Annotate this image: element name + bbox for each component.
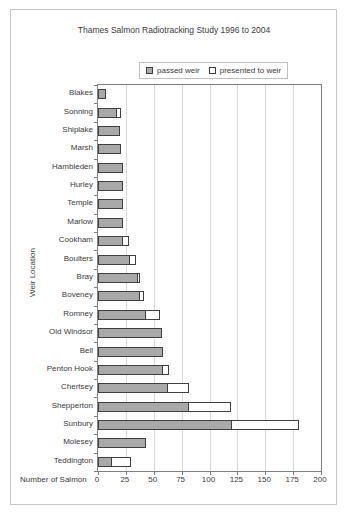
legend: passed weir presented to weir: [139, 62, 288, 79]
y-axis-tick: [94, 342, 97, 343]
y-axis-tick: [94, 195, 97, 196]
y-axis-category-label: Bell: [12, 346, 93, 356]
y-axis-category-label: Temple: [12, 198, 93, 208]
bar-passed-segment: [98, 218, 123, 228]
y-axis-tick: [94, 379, 97, 380]
bar-passed-segment: [98, 365, 163, 375]
bar-presented-segment: [116, 108, 121, 118]
y-axis-category-label: Sunbury: [12, 419, 93, 429]
y-axis-tick: [94, 416, 97, 417]
x-axis-tick-label: 125: [221, 475, 251, 484]
x-axis-tick-label: 100: [194, 475, 224, 484]
bar-passed-segment: [98, 457, 112, 467]
y-axis-category-label: Romney: [12, 309, 93, 319]
legend-label-presented: presented to weir: [220, 66, 281, 75]
bar-passed-segment: [98, 108, 117, 118]
gridline: [265, 85, 266, 471]
passed-weir-swatch-icon: [146, 67, 153, 74]
y-axis-tick: [94, 287, 97, 288]
bar-presented-segment: [129, 255, 136, 265]
plot-area: [97, 84, 322, 472]
chart-title: Thames Salmon Radiotracking Study 1996 t…: [0, 25, 348, 35]
gridline: [210, 85, 211, 471]
chart-image: Thames Salmon Radiotracking Study 1996 t…: [0, 0, 348, 516]
y-axis-tick: [94, 214, 97, 215]
y-axis-category-label: Sonning: [12, 107, 93, 117]
y-axis-category-label: Blakes: [12, 88, 93, 98]
y-axis-tick: [94, 434, 97, 435]
y-axis-tick: [94, 177, 97, 178]
bar-presented-segment: [231, 420, 299, 430]
bar-presented-segment: [188, 402, 231, 412]
x-axis-tick-label: 75: [166, 475, 196, 484]
legend-item-passed: passed weir: [146, 66, 200, 75]
bar-passed-segment: [98, 438, 146, 448]
bar-presented-segment: [122, 236, 129, 246]
bar-passed-segment: [98, 383, 168, 393]
bar-passed-segment: [98, 420, 232, 430]
y-axis-tick: [94, 232, 97, 233]
presented-to-weir-swatch-icon: [209, 67, 216, 74]
y-axis-category-label: Cookham: [12, 235, 93, 245]
gridline: [182, 85, 183, 471]
bar-passed-segment: [98, 163, 123, 173]
y-axis-labels: BlakesSonningShiplakeMarshHambledenHurle…: [12, 84, 93, 470]
y-axis-category-label: Hambleden: [12, 162, 93, 172]
y-axis-tick: [94, 103, 97, 104]
bar-passed-segment: [98, 126, 120, 136]
x-axis-tick-label: 175: [277, 475, 307, 484]
y-axis-tick: [94, 306, 97, 307]
gridline: [154, 85, 155, 471]
y-axis-category-label: Shepperton: [12, 401, 93, 411]
y-axis-tick: [94, 361, 97, 362]
bar-passed-segment: [98, 347, 163, 357]
y-axis-category-label: Boulters: [12, 254, 93, 264]
legend-item-presented: presented to weir: [209, 66, 281, 75]
bar-presented-segment: [139, 291, 144, 301]
bar-presented-segment: [145, 310, 160, 320]
y-axis-tick: [94, 250, 97, 251]
y-axis-tick: [94, 85, 97, 86]
y-axis-category-label: Penton Hook: [12, 364, 93, 374]
bar-passed-segment: [98, 181, 123, 191]
y-axis-tick: [94, 324, 97, 325]
y-axis-tick: [94, 140, 97, 141]
y-axis-category-label: Marlow: [12, 217, 93, 227]
legend-label-passed: passed weir: [157, 66, 200, 75]
y-axis-category-label: Bray: [12, 272, 93, 282]
y-axis-tick: [94, 397, 97, 398]
bar-presented-segment: [162, 365, 169, 375]
y-axis-tick: [94, 471, 97, 472]
bar-passed-segment: [98, 328, 162, 338]
x-axis-tick-label: 150: [249, 475, 279, 484]
bar-passed-segment: [98, 273, 138, 283]
y-axis-tick: [94, 269, 97, 270]
y-axis-category-label: Molesey: [12, 437, 93, 447]
bar-passed-segment: [98, 144, 121, 154]
y-axis-category-label: Shiplake: [12, 125, 93, 135]
y-axis-category-label: Marsh: [12, 143, 93, 153]
x-axis-title: Number of Salmon: [20, 475, 87, 484]
gridline: [237, 85, 238, 471]
y-axis-category-label: Teddington: [12, 456, 93, 466]
y-axis-category-label: Chertsey: [12, 382, 93, 392]
x-axis-tick-label: 50: [138, 475, 168, 484]
y-axis-tick: [94, 159, 97, 160]
x-axis-labels: 0255075100125150175200: [97, 475, 320, 487]
y-axis-category-label: Old Windsor: [12, 327, 93, 337]
y-axis-tick: [94, 122, 97, 123]
bar-presented-segment: [137, 273, 140, 283]
bar-passed-segment: [98, 236, 123, 246]
x-axis-tick-label: 200: [305, 475, 335, 484]
bar-passed-segment: [98, 402, 189, 412]
y-axis-category-label: Boveney: [12, 290, 93, 300]
x-axis-tick-label: 25: [110, 475, 140, 484]
gridline: [293, 85, 294, 471]
bar-passed-segment: [98, 199, 123, 209]
bar-presented-segment: [167, 383, 189, 393]
bar-passed-segment: [98, 310, 146, 320]
bar-presented-segment: [111, 457, 131, 467]
y-axis-category-label: Hurley: [12, 180, 93, 190]
y-axis-tick: [94, 453, 97, 454]
bar-passed-segment: [98, 291, 140, 301]
